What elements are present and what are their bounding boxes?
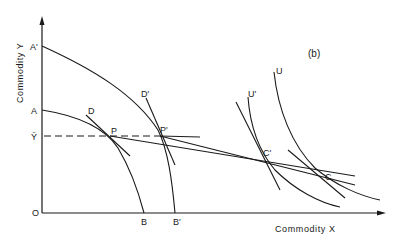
y-axis-title: Commodity Y bbox=[15, 43, 25, 103]
label-Y-bar: Ȳ bbox=[31, 132, 37, 142]
label-A-prime: A' bbox=[30, 42, 38, 52]
ppf-A-prime-B-prime bbox=[42, 46, 175, 213]
x-axis-arrow-icon bbox=[377, 211, 386, 216]
ppf-AB bbox=[42, 110, 144, 213]
label-D: D bbox=[88, 106, 95, 116]
indifference-curve-U-prime bbox=[248, 97, 340, 207]
trade-diagram: A' A Ȳ O B B' D D' U' U P P' C' C (b) Co… bbox=[0, 0, 402, 240]
label-origin: O bbox=[32, 208, 39, 218]
label-U-prime: U' bbox=[248, 89, 256, 99]
label-D-prime: D' bbox=[141, 89, 149, 99]
label-U: U bbox=[276, 66, 283, 76]
panel-label: (b) bbox=[308, 48, 320, 59]
label-C-prime: C' bbox=[263, 148, 271, 158]
label-C: C bbox=[325, 172, 332, 182]
label-P-prime: P' bbox=[160, 125, 168, 135]
tangent-C-prime bbox=[236, 102, 280, 190]
label-P: P bbox=[111, 126, 117, 136]
label-B-prime: B' bbox=[173, 217, 181, 227]
x-axis-title: Commodity X bbox=[275, 224, 336, 234]
label-A: A bbox=[31, 106, 37, 116]
y-axis-arrow-icon bbox=[40, 16, 45, 25]
price-line-P-prime-upper bbox=[160, 136, 200, 137]
tangent-C bbox=[288, 150, 345, 198]
label-B: B bbox=[141, 217, 147, 227]
